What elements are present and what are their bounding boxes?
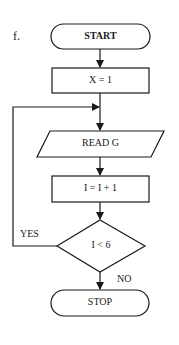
figure-label: f. [13,29,20,44]
stop-label: STOP [51,296,149,307]
read-label: READ G [37,137,164,148]
init-label: X = 1 [52,74,149,85]
flowchart-canvas [0,0,179,345]
increment-label: I = I + 1 [52,182,149,193]
start-label: START [51,30,150,41]
decision-label: I < 6 [57,239,145,250]
yes-label: YES [20,228,39,239]
no-label: NO [117,273,131,284]
